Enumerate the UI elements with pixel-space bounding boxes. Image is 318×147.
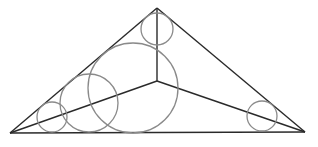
small-right-circle (247, 101, 277, 131)
geometry-diagram (0, 0, 318, 147)
large-circle (88, 43, 178, 133)
medium-circle (60, 74, 118, 132)
interior-segments (10, 8, 305, 133)
small-left-circle (37, 102, 67, 132)
edge-left-apex (10, 8, 157, 133)
edge-apex-right (157, 8, 305, 132)
segment-interior-left (10, 81, 157, 133)
segment-interior-right (157, 81, 305, 132)
